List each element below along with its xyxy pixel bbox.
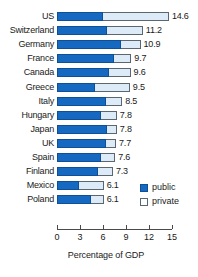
bar-row: Italy8.5 [0, 95, 198, 108]
category-label: UK [0, 139, 54, 148]
bar-segment-public [57, 68, 109, 77]
bar-row: France9.7 [0, 52, 198, 65]
category-label: Germany [0, 40, 54, 49]
stacked-bar [57, 54, 131, 63]
bar-segment-public [57, 195, 91, 204]
bar-chart: US14.6Switzerland11.2Germany10.9France9.… [0, 0, 198, 277]
stacked-bar [57, 40, 141, 49]
bar-segment-private [109, 68, 130, 77]
bar-segment-private [106, 97, 122, 106]
bar-segment-public [57, 83, 95, 92]
category-label: Mexico [0, 181, 54, 190]
x-axis-tick-label: 9 [123, 233, 128, 242]
bar-row: Germany10.9 [0, 38, 198, 51]
stacked-bar [57, 83, 130, 92]
bar-segment-private [95, 83, 130, 92]
bar-segment-public [57, 153, 101, 162]
bar-value-label: 7.8 [120, 125, 132, 134]
legend-item-public: public [140, 182, 179, 193]
legend-label-public: public [152, 183, 176, 192]
legend-swatch-private-icon [140, 198, 148, 206]
legend-item-private: private [140, 196, 179, 207]
bar-segment-private [107, 26, 143, 35]
bar-value-label: 9.6 [134, 68, 146, 77]
bar-row: Spain7.6 [0, 151, 198, 164]
category-label: Switzerland [0, 26, 54, 35]
legend-swatch-public-icon [140, 184, 148, 192]
bar-row: US14.6 [0, 10, 198, 23]
stacked-bar [57, 97, 122, 106]
bar-segment-public [57, 26, 107, 35]
bar-value-label: 7.8 [120, 111, 132, 120]
bar-value-label: 6.1 [107, 195, 119, 204]
bar-segment-public [57, 111, 101, 120]
x-axis-tick-label: 15 [167, 233, 177, 242]
bar-segment-private [121, 40, 140, 49]
bar-segment-public [57, 12, 103, 21]
bar-value-label: 6.1 [107, 181, 119, 190]
bar-segment-private [101, 153, 116, 162]
x-axis-tick-label: 0 [54, 233, 59, 242]
x-axis-tick-label: 3 [77, 233, 82, 242]
bar-value-label: 10.9 [144, 40, 161, 49]
bar-value-label: 7.6 [118, 153, 130, 162]
bar-value-label: 11.2 [146, 26, 162, 35]
bar-row: UK7.7 [0, 137, 198, 150]
bar-segment-public [57, 125, 107, 134]
category-label: Japan [0, 125, 54, 134]
stacked-bar [57, 181, 104, 190]
bar-segment-private [107, 125, 117, 134]
bar-value-label: 9.5 [133, 83, 145, 92]
bar-segment-public [57, 97, 106, 106]
stacked-bar [57, 153, 115, 162]
x-axis-title-text: Percentage of GDP [68, 250, 144, 260]
x-axis-line [57, 229, 172, 230]
bar-segment-public [57, 40, 121, 49]
bar-segment-private [114, 54, 132, 63]
category-label: Italy [0, 97, 54, 106]
bar-segment-private [79, 181, 104, 190]
x-axis-tick-label: 6 [100, 233, 105, 242]
x-axis-tick [80, 225, 81, 229]
bar-segment-private [106, 139, 116, 148]
chart-legend: public private [140, 182, 179, 210]
category-label: Canada [0, 68, 54, 77]
x-axis-tick [126, 225, 127, 229]
x-axis-tick [172, 225, 173, 229]
category-label: Poland [0, 195, 54, 204]
bar-row: Canada9.6 [0, 66, 198, 79]
bar-segment-public [57, 167, 98, 176]
bar-segment-public [57, 54, 114, 63]
category-label: France [0, 54, 54, 63]
category-label: US [0, 12, 54, 21]
category-label: Greece [0, 83, 54, 92]
bar-row: Greece9.5 [0, 81, 198, 94]
category-label: Spain [0, 153, 54, 162]
x-axis-tick [149, 225, 150, 229]
bar-row: Hungary7.8 [0, 109, 198, 122]
bar-segment-private [91, 195, 104, 204]
x-axis-tick [57, 225, 58, 229]
x-axis-tick [103, 225, 104, 229]
bar-segment-public [57, 181, 79, 190]
bar-value-label: 7.3 [116, 167, 128, 176]
bar-value-label: 7.7 [119, 139, 131, 148]
bar-value-label: 14.6 [172, 12, 189, 21]
bar-segment-public [57, 139, 106, 148]
bar-row: Finland7.3 [0, 165, 198, 178]
bar-row: Switzerland11.2 [0, 24, 198, 37]
stacked-bar [57, 167, 113, 176]
bar-segment-private [103, 12, 169, 21]
category-label: Hungary [0, 111, 54, 120]
bar-segment-private [101, 111, 116, 120]
x-axis-title: Percentage of GDP [0, 250, 198, 260]
category-label: Finland [0, 167, 54, 176]
bar-row: Japan7.8 [0, 123, 198, 136]
stacked-bar [57, 111, 117, 120]
legend-label-private: private [152, 197, 179, 206]
bar-value-label: 8.5 [125, 97, 137, 106]
stacked-bar [57, 68, 131, 77]
stacked-bar [57, 26, 143, 35]
stacked-bar [57, 195, 104, 204]
stacked-bar [57, 12, 169, 21]
